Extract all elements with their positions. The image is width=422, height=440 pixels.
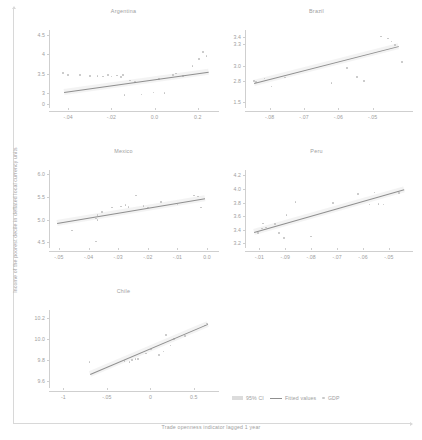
x-tick [285, 248, 286, 250]
x-tick-label: -.07 [324, 254, 350, 260]
y-tick [47, 93, 49, 94]
x-tick [338, 108, 339, 110]
y-tick-label: 4 [19, 51, 45, 57]
data-point [278, 232, 280, 234]
data-point [89, 361, 91, 363]
x-tick-label: -.04 [76, 254, 102, 260]
x-tick-label: -.06 [350, 254, 376, 260]
y-tick [47, 339, 49, 340]
y-tick [243, 66, 245, 67]
data-point [67, 74, 69, 76]
x-tick [150, 388, 151, 390]
x-tick [198, 108, 199, 110]
x-tick-label: -.07 [291, 114, 317, 120]
data-point [111, 76, 113, 78]
panel-title-brazil: Brazil [211, 8, 422, 14]
data-point [131, 359, 133, 361]
y-tick [47, 360, 49, 361]
data-point [383, 204, 385, 206]
x-tick [270, 108, 271, 110]
legend-label-ci: 95% CI [246, 395, 264, 401]
figure-canvas: Income of the poorest decile in deflated… [0, 0, 422, 440]
data-point [271, 86, 273, 88]
data-point [401, 61, 403, 63]
data-point [378, 203, 380, 205]
y-tick-label: 3.8 [215, 200, 241, 206]
data-point [107, 74, 109, 76]
x-tick [194, 388, 195, 390]
y-tick [243, 216, 245, 217]
panel-y-axis [245, 30, 246, 108]
x-tick [177, 248, 178, 250]
panel-title-peru: Peru [211, 148, 422, 154]
data-point [262, 223, 264, 225]
x-tick-label: -.06 [325, 114, 351, 120]
x-tick-label: 0.0 [142, 114, 168, 120]
data-point [129, 361, 131, 363]
y-tick [47, 220, 49, 221]
y-tick-label: 3.4 [215, 34, 241, 40]
y-tick [47, 381, 49, 382]
panel-x-axis [49, 251, 219, 252]
figure-x-axis-title: Trade openness indicator lagged 1 year [0, 424, 422, 430]
data-point [122, 74, 124, 76]
fitted-line [64, 71, 209, 92]
y-tick [47, 318, 49, 319]
y-tick-label: 3.0 [215, 63, 241, 69]
x-tick [118, 248, 119, 250]
y-tick-label: 2.8 [215, 78, 241, 84]
y-tick [47, 35, 49, 36]
x-tick-label: 0.2 [185, 114, 211, 120]
panel-title-argentina: Argentina [18, 8, 229, 14]
y-tick-label: 0 [19, 101, 45, 107]
x-tick-label: -.05 [376, 254, 402, 260]
y-tick [243, 203, 245, 204]
panel-x-axis [49, 111, 219, 112]
y-tick [243, 44, 245, 45]
fitted-line [254, 189, 405, 233]
y-tick-label: 3.4 [215, 227, 241, 233]
y-tick-label: 3.2 [215, 240, 241, 246]
x-tick-label: -.02 [135, 254, 161, 260]
data-point [158, 354, 160, 356]
data-point [202, 51, 204, 53]
data-point [198, 58, 200, 60]
y-tick-label: 3.3 [215, 41, 241, 47]
y-tick-label: 9.8 [19, 357, 45, 363]
data-point [153, 92, 155, 94]
data-point [120, 206, 122, 208]
x-tick [373, 108, 374, 110]
data-point [116, 75, 118, 77]
y-tick [243, 230, 245, 231]
panel-argentina: Argentina033.544.5-.04-.020.00.2 [18, 8, 229, 140]
y-tick [243, 243, 245, 244]
x-tick [63, 388, 64, 390]
x-tick [259, 248, 260, 250]
data-point [97, 219, 99, 221]
data-point [184, 335, 186, 337]
y-tick-label: 5.5 [19, 194, 45, 200]
x-tick-label: -.04 [55, 114, 81, 120]
y-tick [47, 54, 49, 55]
legend-item-fitted: Fitted values [270, 395, 316, 401]
x-tick-label: -.05 [46, 254, 72, 260]
data-point [71, 230, 73, 232]
data-point [192, 65, 194, 67]
data-point [380, 36, 382, 38]
data-point [346, 67, 348, 69]
data-point [95, 241, 97, 243]
data-point [374, 192, 376, 194]
data-point [295, 201, 297, 203]
x-tick [337, 248, 338, 250]
data-point [143, 205, 145, 207]
x-tick [155, 108, 156, 110]
x-tick-label: 0.5 [181, 394, 207, 400]
y-tick-label: 1.5 [215, 99, 241, 105]
x-tick [389, 248, 390, 250]
data-point [125, 204, 127, 206]
y-tick [243, 175, 245, 176]
panel-title-mexico: Mexico [18, 148, 229, 154]
data-point [283, 237, 285, 239]
panel-title-chile: Chile [18, 288, 229, 294]
y-tick-label: 4.0 [215, 186, 241, 192]
